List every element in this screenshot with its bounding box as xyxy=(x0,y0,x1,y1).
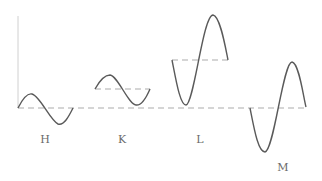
label-m: M xyxy=(277,161,288,174)
wave-k xyxy=(95,75,150,105)
label-l: L xyxy=(196,133,204,146)
label-h: H xyxy=(40,133,50,146)
wave-l xyxy=(172,15,228,105)
wave-m xyxy=(250,62,306,152)
label-k: K xyxy=(118,133,127,146)
waveform-diagram: H K L M xyxy=(0,0,322,181)
wave-h xyxy=(18,94,73,124)
